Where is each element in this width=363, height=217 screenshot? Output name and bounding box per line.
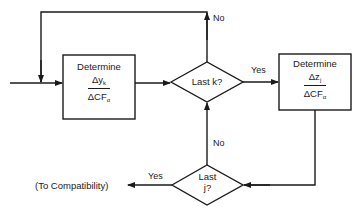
edge-label-top-yes: Yes (251, 66, 266, 75)
decision-last-k: Last k? (171, 77, 243, 88)
box-right-title: Determine (279, 59, 351, 69)
edge-label-bottom-yes: Yes (148, 172, 163, 181)
box-determine-dz-dcf: Determine Δzj ΔCFα (279, 59, 351, 100)
edge-label-top-no: No (213, 14, 225, 23)
fraction-dz-dcf: Δzj ΔCFα (304, 72, 326, 100)
fraction-dy-dcf: Δyk ΔCFα (88, 75, 110, 103)
box-left-title: Determine (63, 62, 135, 72)
edge-label-bottom-no: No (213, 139, 225, 148)
decision-last-j: Last j? (172, 172, 243, 194)
box-determine-dy-dcf: Determine Δyk ΔCFα (63, 62, 135, 103)
exit-to-compatibility: (To Compatibility) (35, 181, 108, 191)
